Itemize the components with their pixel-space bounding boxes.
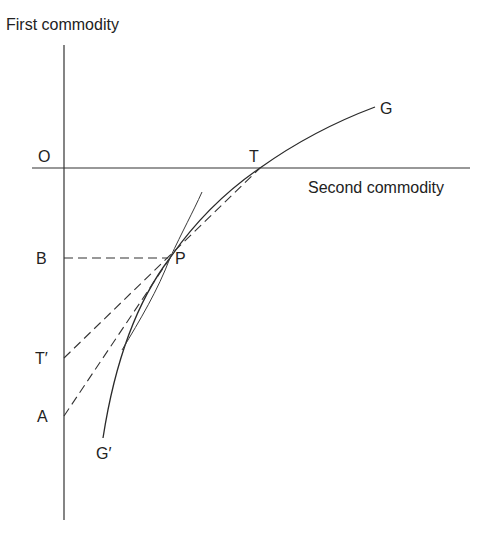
- label-B: B: [36, 250, 47, 267]
- secondary-curve-through-P: [122, 192, 202, 350]
- label-origin: O: [38, 148, 50, 165]
- y-axis-label: First commodity: [6, 16, 119, 33]
- label-P: P: [175, 250, 186, 267]
- label-A: A: [37, 408, 48, 425]
- transformation-curve: [103, 107, 375, 438]
- x-axis-label: Second commodity: [308, 179, 444, 196]
- tangent-line-T-prime-to-T: [64, 168, 260, 358]
- label-T: T: [249, 148, 259, 165]
- line-A-to-P: [64, 258, 170, 416]
- diagram-canvas: First commodity Second commodity O T G P…: [0, 0, 490, 546]
- label-T-prime: T′: [35, 350, 48, 367]
- label-G: G: [380, 100, 392, 117]
- label-G-prime: G′: [96, 445, 111, 462]
